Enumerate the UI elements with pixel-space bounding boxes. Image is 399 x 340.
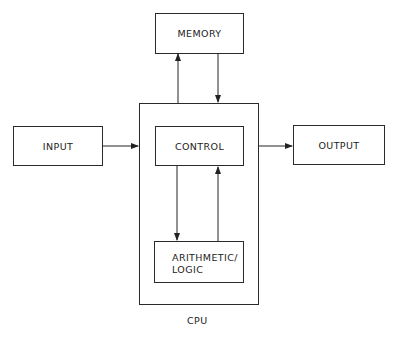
output-label: OUTPUT [318, 140, 359, 151]
alu-label-line2: LOGIC [172, 264, 203, 275]
control-box: CONTROL [155, 126, 244, 166]
input-box: INPUT [13, 126, 103, 166]
memory-box: MEMORY [155, 13, 244, 54]
alu-box: ARITHMETIC/ LOGIC [154, 241, 244, 283]
cpu-label: CPU [187, 315, 208, 326]
output-box: OUTPUT [293, 125, 385, 165]
input-label: INPUT [43, 141, 73, 152]
alu-label-line1: ARITHMETIC/ [172, 252, 238, 263]
control-label: CONTROL [175, 141, 224, 152]
memory-label: MEMORY [177, 28, 221, 39]
